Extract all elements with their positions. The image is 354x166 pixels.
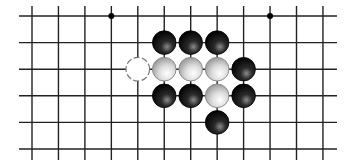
white-stone[interactable]	[152, 57, 176, 81]
white-stone[interactable]	[179, 57, 203, 81]
black-stone[interactable]	[152, 84, 176, 108]
go-board[interactable]	[0, 0, 354, 166]
black-stone[interactable]	[232, 84, 256, 108]
white-stone[interactable]	[205, 57, 229, 81]
black-stone[interactable]	[179, 31, 203, 55]
black-stone[interactable]	[232, 57, 256, 81]
go-board-canvas[interactable]	[0, 0, 354, 166]
board-grid	[19, 6, 337, 160]
star-point-icon	[108, 13, 114, 19]
white-stone[interactable]	[205, 84, 229, 108]
black-stone[interactable]	[205, 111, 229, 135]
black-stone[interactable]	[152, 31, 176, 55]
black-stone[interactable]	[179, 84, 203, 108]
star-point-icon	[267, 13, 273, 19]
black-stone[interactable]	[205, 31, 229, 55]
empty-point-marker[interactable]	[126, 57, 150, 81]
